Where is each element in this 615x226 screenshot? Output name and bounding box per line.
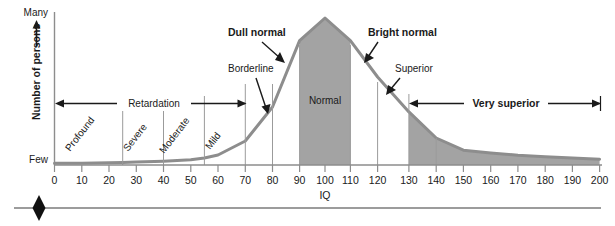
bracket-very-superior-label: Very superior: [472, 97, 539, 109]
bracket-retardation: Retardation: [55, 96, 247, 111]
x-tick-150: 150: [455, 174, 473, 186]
y-axis-bottom-label: Few: [29, 154, 49, 165]
bracket-retardation-label: Retardation: [128, 98, 180, 109]
x-tick-30: 30: [130, 174, 142, 186]
x-tick-70: 70: [239, 174, 251, 186]
diamond-icon: [33, 195, 46, 221]
diagonal-label-severe: Severe: [121, 121, 149, 153]
callout-borderline-label: Borderline: [228, 63, 274, 74]
x-tick-200: 200: [591, 174, 609, 186]
x-tick-190: 190: [564, 174, 582, 186]
diagonal-label-mild: Mild: [203, 130, 223, 151]
callout-dull-normal: Dull normal: [228, 26, 286, 63]
x-tick-110: 110: [342, 174, 359, 186]
x-tick-100: 100: [316, 174, 334, 186]
x-tick-50: 50: [185, 174, 197, 186]
x-axis-tick-labels: 0 10 20 30 40 50 60 70 80 90 100 110 120…: [52, 174, 609, 186]
callout-dull-normal-label: Dull normal: [228, 26, 286, 38]
callout-bright-normal-label: Bright normal: [368, 26, 437, 38]
callout-superior-label: Superior: [395, 63, 433, 74]
x-tick-170: 170: [509, 174, 527, 186]
x-tick-40: 40: [158, 174, 170, 186]
callout-borderline: Borderline: [228, 63, 274, 114]
shaded-region-normal: [300, 18, 351, 165]
inline-label-normal: Normal: [309, 95, 341, 106]
x-axis-title: IQ: [319, 189, 330, 201]
x-tick-20: 20: [103, 174, 115, 186]
x-tick-0: 0: [52, 174, 58, 186]
callout-superior: Superior: [386, 63, 433, 95]
x-tick-160: 160: [482, 174, 500, 186]
x-tick-60: 60: [212, 174, 224, 186]
x-tick-180: 180: [536, 174, 554, 186]
diagonal-label-profound: Profound: [63, 114, 97, 153]
x-tick-130: 130: [400, 174, 418, 186]
callout-bright-normal: Bright normal: [364, 26, 437, 63]
x-tick-80: 80: [267, 174, 279, 186]
x-tick-140: 140: [427, 174, 445, 186]
x-tick-10: 10: [76, 174, 88, 186]
iq-distribution-figure: 0 10 20 30 40 50 60 70 80 90 100 110 120…: [0, 0, 615, 226]
bracket-very-superior: Very superior: [409, 95, 601, 111]
x-axis-ticks: [55, 165, 600, 172]
x-tick-90: 90: [294, 174, 306, 186]
x-tick-120: 120: [369, 174, 387, 186]
chart-canvas: 0 10 20 30 40 50 60 70 80 90 100 110 120…: [0, 0, 615, 226]
diagonal-label-moderate: Moderate: [157, 115, 192, 155]
y-axis-top-label: Many: [24, 7, 48, 18]
footer-ornament: [14, 195, 601, 221]
